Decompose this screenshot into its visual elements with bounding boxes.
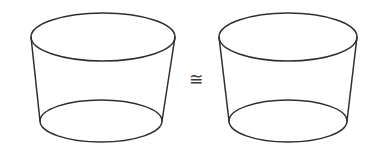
- left-frustum-group: [31, 13, 175, 142]
- right-frustum-group: [219, 13, 357, 142]
- figure-canvas: ≅: [0, 0, 379, 159]
- right-top-rim-ellipse: [219, 13, 357, 61]
- left-side-edge-left: [31, 37, 40, 121]
- congruent-to-symbol: ≅: [183, 64, 209, 94]
- left-bottom-base-ellipse: [40, 100, 162, 142]
- right-side-edge-right: [347, 37, 357, 121]
- right-bottom-base-ellipse: [229, 100, 347, 142]
- right-side-edge-left: [219, 37, 229, 121]
- left-top-rim-ellipse: [31, 13, 175, 61]
